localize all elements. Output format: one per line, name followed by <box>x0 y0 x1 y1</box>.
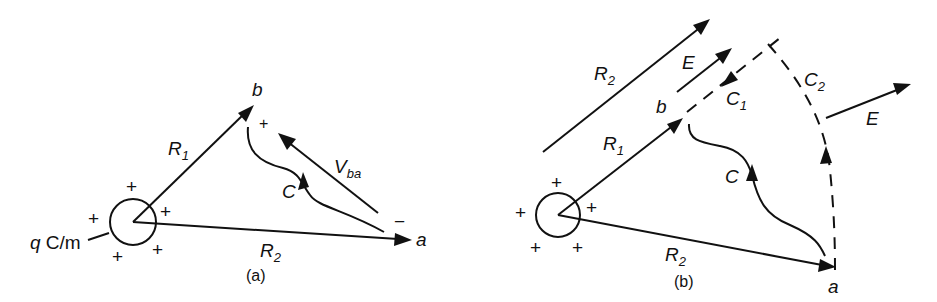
r2-parallel-label: R2 <box>594 63 616 88</box>
point-a-label: a <box>416 229 427 250</box>
charge-plus: + <box>586 197 597 218</box>
arrowhead-icon <box>394 233 412 246</box>
figure-a: q C/m + + + + + R1 R2 b a C Vba + − (a) <box>30 79 427 284</box>
point-a-label: a <box>828 276 839 297</box>
r2-vector <box>133 222 398 239</box>
minus-sign: − <box>394 211 405 232</box>
r1-vector <box>133 113 245 222</box>
line-charge-label: q C/m <box>30 232 81 253</box>
r2-label: R2 <box>665 244 687 269</box>
arrowhead-icon <box>721 71 738 87</box>
charge-plus: + <box>152 239 163 260</box>
charge-plus: + <box>126 176 137 197</box>
e-field-right-label: E <box>866 108 879 129</box>
path-c-label: C <box>282 181 296 202</box>
charge-plus: + <box>160 201 171 222</box>
point-b-label: b <box>656 96 667 117</box>
r1-label: R1 <box>603 133 624 158</box>
diagram-canvas: q C/m + + + + + R1 R2 b a C Vba + − (a) <box>0 0 937 302</box>
diagram-svg: q C/m + + + + + R1 R2 b a C Vba + − (a) <box>0 0 937 302</box>
r2-parallel-vector <box>543 26 702 152</box>
e-field-upper-label: E <box>682 52 695 73</box>
figure-b: + + + + + R1 R2 R2 E b a C1 C2 <box>515 19 911 297</box>
arrowhead-icon <box>693 19 710 35</box>
arrowhead-icon <box>820 146 832 164</box>
point-b-label: b <box>252 79 263 100</box>
vba-label: Vba <box>334 156 361 181</box>
plus-sign: + <box>259 115 268 132</box>
path-c1-label: C1 <box>726 88 747 113</box>
charge-plus: + <box>515 202 526 223</box>
arrowhead-icon <box>667 118 683 134</box>
r2-label: R2 <box>260 240 282 265</box>
charge-plus: + <box>551 172 562 193</box>
arrowhead-icon <box>715 48 732 64</box>
arrowhead-icon <box>298 172 309 190</box>
charge-plus: + <box>572 237 583 258</box>
caption-a: (a) <box>246 267 266 284</box>
path-c-label: C <box>725 166 739 187</box>
charge-plus: + <box>88 208 99 229</box>
path-c-curve <box>689 124 825 256</box>
caption-b: (b) <box>674 273 694 290</box>
arrowhead-icon <box>893 83 911 95</box>
path-c-curve <box>248 127 384 232</box>
e-field-right-vector <box>826 88 902 118</box>
charge-plus: + <box>112 246 123 267</box>
arrowhead-icon <box>818 259 836 272</box>
charge-leader-line <box>88 233 109 240</box>
r1-label: R1 <box>168 138 189 163</box>
path-c2-label: C2 <box>804 69 826 94</box>
arrowhead-icon <box>238 105 254 122</box>
charge-plus: + <box>530 237 541 258</box>
